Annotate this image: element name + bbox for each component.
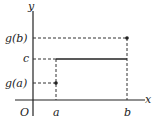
tick-label-a: a — [53, 106, 60, 119]
tick-label-gb: g(b) — [5, 32, 28, 45]
y-axis-label: y — [27, 0, 35, 13]
point-b-gb — [125, 36, 129, 40]
tick-label-b: b — [124, 106, 131, 119]
point-a-ga — [54, 81, 58, 85]
tick-label-ga: g(a) — [5, 77, 27, 90]
origin-label: O — [20, 106, 29, 119]
x-axis-label: x — [145, 93, 152, 106]
dashed-guides — [33, 38, 127, 100]
tick-label-c: c — [23, 52, 29, 65]
diagram-canvas: y x O g(b) c g(a) a b — [0, 0, 159, 124]
